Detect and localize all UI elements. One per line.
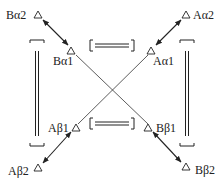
triangle-icon-balpha1 — [67, 47, 75, 54]
arrow-abeta2-abeta1 — [43, 132, 71, 163]
triangle-icon-bbeta2 — [182, 163, 190, 170]
bracket-right-vertical — [180, 40, 194, 146]
arrow-bbeta2-bbeta1 — [153, 132, 181, 162]
label-balpha1: Bα1 — [53, 54, 73, 68]
label-balpha2: Bα2 — [6, 8, 26, 22]
label-bbeta1: Bβ1 — [156, 121, 176, 135]
label-bbeta2: Bβ2 — [195, 163, 215, 177]
arrow-balpha2-balpha1 — [43, 20, 68, 45]
bracket-bottom-middle — [90, 118, 134, 129]
label-abeta2: Aβ2 — [8, 164, 29, 178]
label-aalpha1: Aα1 — [153, 54, 174, 68]
triangle-icon-abeta2 — [34, 164, 42, 171]
label-aalpha2: Aα2 — [193, 8, 214, 22]
triangle-icon-balpha2 — [34, 11, 42, 18]
triangle-icon-bbeta1 — [144, 124, 152, 131]
label-abeta1: Aβ1 — [48, 121, 69, 135]
triangle-icon-abeta1 — [72, 124, 80, 131]
bracket-left-vertical — [30, 40, 44, 146]
triangle-icon-aalpha1 — [147, 47, 155, 54]
triangle-icon-aalpha2 — [182, 11, 190, 18]
arrow-aalpha2-aalpha1 — [156, 20, 181, 45]
diagram-canvas: Bα2 Bα1 Aα1 Aα2 Aβ1 Bβ1 Aβ2 Bβ2 — [0, 0, 224, 181]
bracket-top-middle — [90, 40, 134, 51]
